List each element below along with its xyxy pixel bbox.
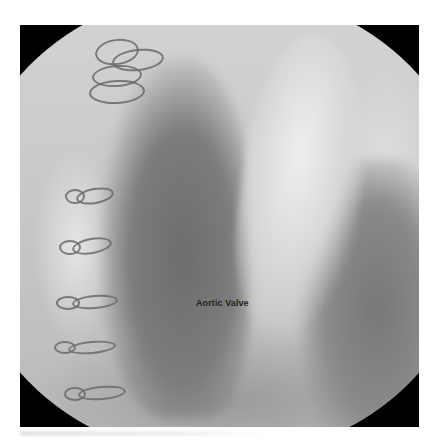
aortic-valve-label: Aortic Valve <box>196 298 249 308</box>
figure-caption-illegible <box>20 431 270 436</box>
fluoroscopy-field <box>20 25 419 427</box>
angiogram-image <box>20 25 419 427</box>
ascending-aorta-contrast <box>100 59 250 419</box>
